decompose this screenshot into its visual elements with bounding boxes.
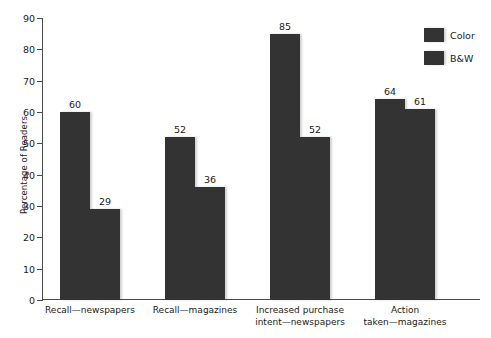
plot-area: 0102030405060708090 6029523685526461 (42, 18, 480, 300)
bar-color-1 (165, 137, 195, 300)
y-tick-label: 20 (23, 232, 35, 243)
bar-chart: Percentage of Readers 010203040506070809… (0, 0, 491, 338)
bar-value-label: 60 (69, 99, 81, 110)
bar-color-3 (375, 99, 405, 300)
bar-value-label: 85 (279, 21, 291, 32)
legend-swatch (424, 51, 444, 65)
bar-value-label: 64 (384, 86, 396, 97)
y-tick-mark (37, 81, 43, 82)
legend-swatch (424, 28, 444, 42)
y-tick-mark (37, 237, 43, 238)
y-tick-label: 90 (23, 13, 35, 24)
bar-value-label: 29 (99, 196, 111, 207)
y-tick-label: 70 (23, 75, 35, 86)
legend-item-b-w: B&W (424, 51, 475, 65)
y-tick-label: 30 (23, 201, 35, 212)
legend: ColorB&W (424, 28, 475, 74)
y-tick-mark (37, 175, 43, 176)
bar-value-label: 61 (414, 96, 426, 107)
y-tick-label: 80 (23, 44, 35, 55)
y-tick-mark (37, 18, 43, 19)
y-tick-mark (37, 143, 43, 144)
y-tick-label: 10 (23, 263, 35, 274)
bar-b-w-2 (300, 137, 330, 300)
bar-b-w-1 (195, 187, 225, 300)
y-tick-mark (37, 300, 43, 301)
y-tick-mark (37, 206, 43, 207)
category-label-0: Recall—newspapers (45, 305, 135, 317)
legend-label: Color (450, 30, 475, 41)
category-label-3: Action taken—magazines (364, 305, 447, 328)
category-label-2: Increased purchase intent—newspapers (255, 305, 345, 328)
bar-color-0 (60, 112, 90, 300)
y-tick-label: 40 (23, 169, 35, 180)
bar-value-label: 52 (174, 124, 186, 135)
y-tick-label: 60 (23, 107, 35, 118)
y-tick-mark (37, 269, 43, 270)
y-tick-label: 0 (29, 295, 35, 306)
y-tick-mark (37, 112, 43, 113)
legend-label: B&W (450, 53, 473, 64)
bar-b-w-3 (405, 109, 435, 300)
y-tick-label: 50 (23, 138, 35, 149)
legend-item-color: Color (424, 28, 475, 42)
bar-color-2 (270, 34, 300, 300)
bar-value-label: 52 (309, 124, 321, 135)
bar-value-label: 36 (204, 174, 216, 185)
category-label-1: Recall—magazines (153, 305, 238, 317)
bar-b-w-0 (90, 209, 120, 300)
y-tick-mark (37, 49, 43, 50)
y-axis-line (42, 18, 43, 300)
